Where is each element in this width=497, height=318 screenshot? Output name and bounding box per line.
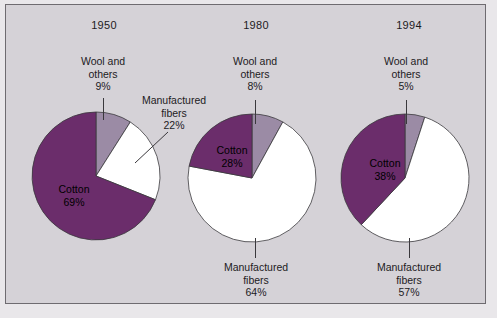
label-wool-1994-line1: Wool and — [384, 55, 428, 67]
label-manufactured-1980-line2: fibers — [243, 274, 269, 286]
chart-frame: 1950 1980 1994 Wool and others 9% Manufa… — [5, 4, 486, 304]
label-cotton-1994: Cotton 38% — [350, 157, 420, 182]
label-manufactured-1994-value: 57% — [398, 286, 419, 298]
label-manufactured-1980-value: 64% — [245, 286, 266, 298]
pie-1980-svg — [186, 112, 318, 244]
label-manufactured-1980: Manufactured fibers 64% — [211, 261, 301, 299]
chart-title-1950: 1950 — [64, 19, 144, 31]
label-wool-1950-line1: Wool and — [81, 55, 125, 67]
leader-line-manufactured-1950 — [135, 132, 168, 163]
label-manufactured-1994: Manufactured fibers 57% — [364, 261, 454, 299]
leader-line-manufactured-1980 — [255, 238, 256, 258]
label-manufactured-1950-value: 22% — [163, 119, 184, 131]
label-manufactured-1950-line1: Manufactured — [142, 94, 206, 106]
label-manufactured-1994-line2: fibers — [396, 274, 422, 286]
label-wool-1994: Wool and others 5% — [366, 55, 446, 93]
label-wool-1994-line2: others — [391, 68, 420, 80]
label-wool-1980: Wool and others 8% — [215, 55, 295, 93]
leader-line-wool-1950 — [103, 98, 104, 120]
chart-title-1994: 1994 — [369, 19, 449, 31]
chart-title-1980: 1980 — [216, 19, 296, 31]
label-manufactured-1950-line2: fibers — [161, 107, 187, 119]
label-manufactured-1994-line1: Manufactured — [377, 261, 441, 273]
leader-line-wool-1980 — [255, 100, 256, 124]
label-wool-1980-line1: Wool and — [233, 55, 277, 67]
label-wool-1980-value: 8% — [247, 80, 262, 92]
label-manufactured-1980-line1: Manufactured — [224, 261, 288, 273]
label-wool-1994-value: 5% — [398, 80, 413, 92]
label-cotton-1950: Cotton 69% — [39, 183, 109, 208]
label-wool-1950: Wool and others 9% — [63, 55, 143, 93]
label-cotton-1980-value: 28% — [221, 157, 242, 169]
label-wool-1980-line2: others — [240, 68, 269, 80]
label-wool-1950-line2: others — [88, 68, 117, 80]
label-cotton-1950-value: 69% — [63, 196, 84, 208]
label-cotton-1980-name: Cotton — [217, 144, 248, 156]
label-cotton-1994-value: 38% — [374, 170, 395, 182]
pie-chart-1980 — [186, 112, 318, 244]
label-wool-1950-value: 9% — [95, 80, 110, 92]
label-cotton-1994-name: Cotton — [370, 157, 401, 169]
label-cotton-1950-name: Cotton — [59, 183, 90, 195]
leader-line-manufactured-1994 — [409, 238, 410, 258]
label-cotton-1980: Cotton 28% — [197, 144, 267, 169]
leader-line-wool-1994 — [406, 100, 407, 124]
leader-line-manufactured-1950-svg — [134, 131, 170, 165]
